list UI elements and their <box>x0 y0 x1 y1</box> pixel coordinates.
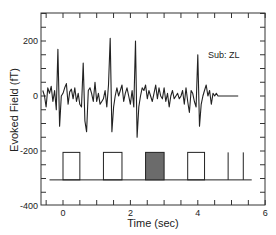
stimulus-block <box>188 152 205 180</box>
stimulus-block <box>146 152 165 180</box>
y-tick-label: -200 <box>20 146 38 156</box>
y-tick-label: 0 <box>33 91 38 101</box>
x-axis-ticks: 0246 <box>46 13 268 218</box>
y-tick-label: 200 <box>23 36 38 46</box>
y-axis-title: Evoked Field (fT) <box>8 68 20 152</box>
evoked-field-chart: -400-2000200 0246 Sub: ZL Time (sec) Evo… <box>0 0 276 235</box>
y-tick-label: -400 <box>20 201 38 211</box>
x-tick-label: 6 <box>263 208 268 218</box>
stimulus-block <box>103 152 122 180</box>
x-tick-label: 4 <box>195 208 200 218</box>
stimulus-blocks <box>50 152 252 180</box>
x-axis-title: Time (sec) <box>127 217 179 229</box>
subject-annotation: Sub: ZL <box>208 50 240 60</box>
y-axis-ticks: -400-2000200 <box>20 14 265 212</box>
x-tick-label: 0 <box>60 208 65 218</box>
stimulus-block <box>63 152 80 180</box>
